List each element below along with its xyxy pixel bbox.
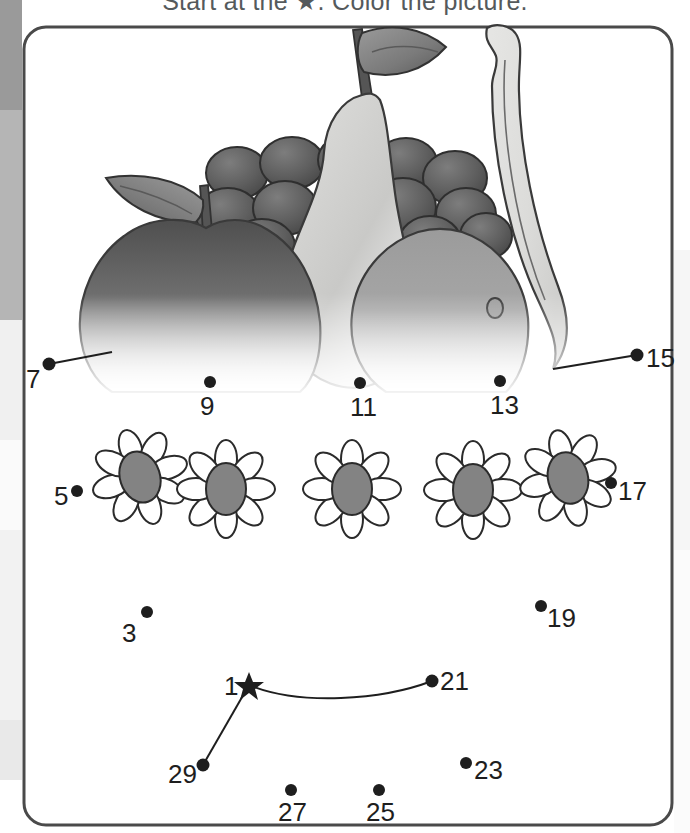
- flower-3: [303, 440, 401, 538]
- dot-17[interactable]: [605, 477, 617, 489]
- dot-21[interactable]: [426, 675, 439, 688]
- dot-label-21: 21: [440, 668, 469, 694]
- dot-label-23: 23: [474, 757, 503, 783]
- dot-label-19: 19: [547, 605, 576, 631]
- dot-label-13: 13: [490, 392, 519, 418]
- dot-label-15: 15: [646, 345, 675, 371]
- pear-stem-leaf: [353, 28, 446, 98]
- dot-11[interactable]: [354, 377, 366, 389]
- dot-7[interactable]: [43, 358, 56, 371]
- dot-label-7: 7: [26, 366, 40, 392]
- dot-label-1: 1: [224, 673, 238, 699]
- dot-25[interactable]: [373, 784, 385, 796]
- dot-label-9: 9: [200, 393, 214, 419]
- dot-3[interactable]: [141, 606, 153, 618]
- orange-navel: [487, 298, 503, 318]
- flower-2: [177, 440, 275, 538]
- guide-lines: [49, 352, 637, 765]
- dot-9[interactable]: [204, 376, 216, 388]
- dot-label-3: 3: [122, 620, 136, 646]
- line-15-to-banana: [553, 355, 637, 369]
- connect-dots: [43, 349, 644, 797]
- dot-29[interactable]: [197, 759, 210, 772]
- dot-label-17: 17: [618, 478, 647, 504]
- worksheet-page: Start at the ★. Color the picture.: [0, 0, 690, 833]
- fruit-illustration: [80, 25, 567, 392]
- dot-19[interactable]: [535, 600, 547, 612]
- dot-15[interactable]: [631, 349, 644, 362]
- dot-label-29: 29: [168, 761, 197, 787]
- dot-label-5: 5: [54, 483, 68, 509]
- dot-label-27: 27: [278, 799, 307, 825]
- line-1-to-21-curve: [249, 681, 432, 698]
- flower-4: [424, 441, 522, 539]
- dot-label-25: 25: [366, 799, 395, 825]
- dot-5[interactable]: [71, 485, 83, 497]
- dot-13[interactable]: [494, 375, 506, 387]
- worksheet-canvas: [0, 0, 690, 833]
- apple-shape: [80, 220, 321, 392]
- start-star[interactable]: [234, 672, 264, 700]
- dot-23[interactable]: [460, 757, 472, 769]
- flower-row: [78, 415, 627, 539]
- flower-1: [78, 415, 201, 538]
- dot-27[interactable]: [285, 784, 297, 796]
- dot-label-11: 11: [350, 394, 377, 420]
